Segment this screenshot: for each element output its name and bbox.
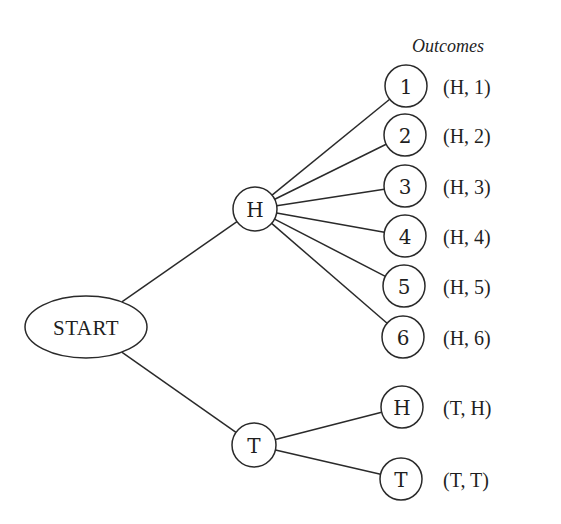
outcome-label: (H, 3) (443, 176, 491, 199)
branch-label: T (247, 434, 261, 458)
leaf-node-h4: 4 (384, 215, 426, 257)
edge-h-to-h5 (275, 219, 386, 276)
edge-h-to-h1 (272, 99, 390, 195)
edge-start-to-h (122, 222, 237, 302)
outcome-label: (H, 1) (443, 76, 491, 99)
leaf-label: 6 (397, 326, 410, 350)
outcome-label: (H, 2) (443, 125, 491, 148)
edge-t-to-th (275, 412, 381, 439)
leaf-node-h3: 3 (384, 165, 426, 207)
edge-h-to-h3 (277, 189, 384, 205)
edge-t-to-tt (275, 450, 380, 474)
leaf-node-h5: 5 (383, 265, 425, 307)
nodes: STARTHT123456HT (25, 65, 427, 500)
branch-node-h: H (233, 187, 277, 231)
branch-node-t: T (232, 423, 276, 467)
edges (122, 99, 390, 474)
start-label: START (53, 316, 119, 340)
outcome-label: (H, 5) (443, 276, 491, 299)
outcome-label: (T, H) (443, 397, 492, 420)
leaf-node-tt: T (380, 458, 422, 500)
branch-label: H (246, 198, 263, 222)
outcome-label: (T, T) (443, 469, 489, 492)
outcome-label: (H, 4) (443, 226, 491, 249)
edge-start-to-t (122, 352, 236, 432)
leaf-label: 2 (399, 124, 412, 148)
outcomes-header: Outcomes (412, 36, 484, 56)
leaf-label: 4 (399, 225, 412, 249)
outcomes-column: (H, 1)(H, 2)(H, 3)(H, 4)(H, 5)(H, 6)(T, … (443, 76, 492, 492)
leaf-node-h6: 6 (382, 316, 424, 358)
outcome-label: (H, 6) (443, 327, 491, 350)
leaf-label: T (394, 468, 408, 492)
leaf-label: 1 (400, 75, 413, 99)
tree-diagram: STARTHT123456HT Outcomes (H, 1)(H, 2)(H,… (0, 0, 561, 524)
leaf-node-th: H (381, 386, 423, 428)
leaf-label: 3 (399, 175, 412, 199)
node-start: START (25, 296, 147, 358)
leaf-label: 5 (398, 275, 411, 299)
leaf-node-h2: 2 (384, 114, 426, 156)
leaf-label: H (393, 396, 410, 420)
edge-h-to-h6 (272, 223, 387, 323)
leaf-node-h1: 1 (385, 65, 427, 107)
